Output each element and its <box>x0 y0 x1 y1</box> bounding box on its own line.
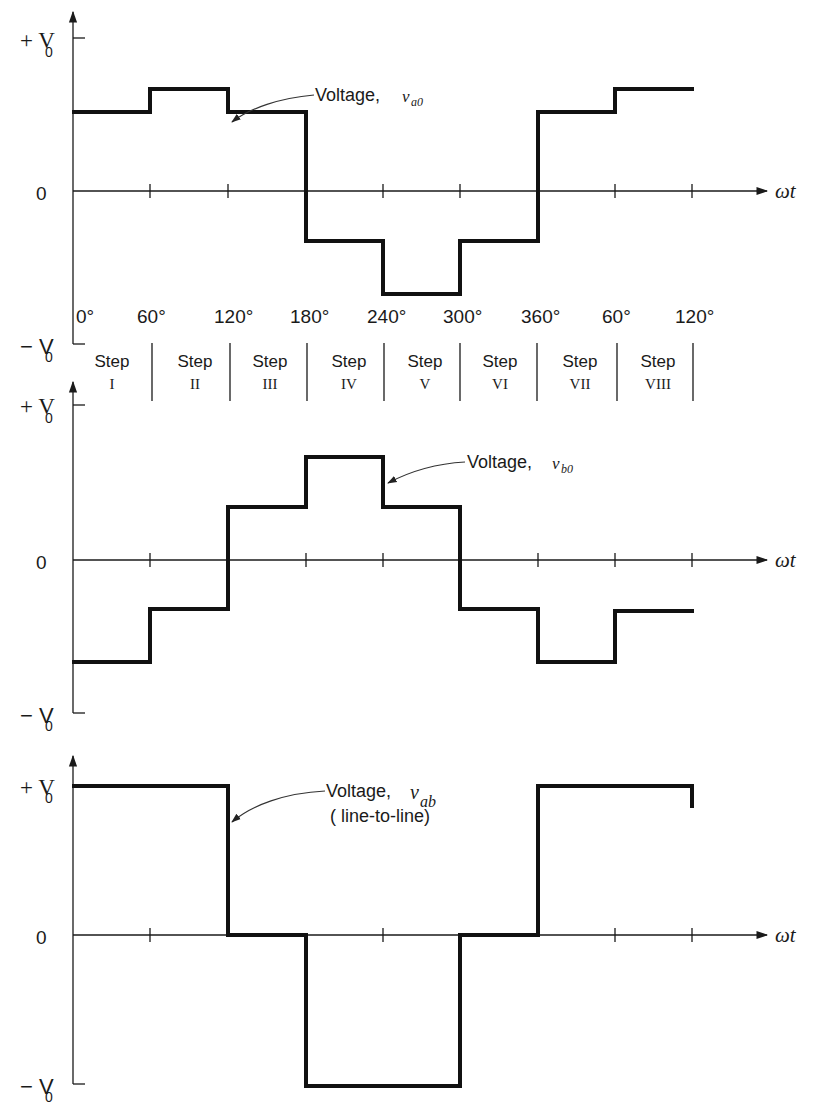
step-band: Step I Step II Step III Step IV Step V S… <box>95 343 693 401</box>
svg-text:VIII: VIII <box>645 376 671 392</box>
zero-label: 0 <box>36 183 47 204</box>
symbol-va0: v <box>402 87 410 106</box>
svg-text:v: v <box>410 781 419 803</box>
omega-t-label: ωt <box>775 548 797 572</box>
annotation-vab: Voltage, <box>326 781 391 801</box>
plot-vab: + V 0 0 ωt − V 0 Voltage, v ab ( line-to… <box>20 756 797 1105</box>
svg-text:360°: 360° <box>521 306 560 327</box>
svg-text:0: 0 <box>45 410 53 426</box>
zero-label: 0 <box>36 552 47 573</box>
svg-text:180°: 180° <box>290 306 329 327</box>
svg-text:Step: Step <box>483 352 518 371</box>
omega-t-label: ωt <box>775 923 797 947</box>
svg-text:V: V <box>420 376 431 392</box>
plot-vb0: + V 0 0 ωt − V 0 Voltage, v b0 <box>20 382 797 734</box>
omega-t-label: ωt <box>775 179 797 203</box>
svg-text:v: v <box>552 454 560 473</box>
svg-text:0°: 0° <box>76 306 94 327</box>
svg-text:IV: IV <box>341 376 357 392</box>
annotation-arrow <box>388 462 465 483</box>
svg-text:VI: VI <box>492 376 508 392</box>
svg-text:240°: 240° <box>367 306 406 327</box>
annotation-vb0: Voltage, <box>467 452 532 472</box>
svg-text:Step: Step <box>408 352 443 371</box>
svg-text:120°: 120° <box>214 306 253 327</box>
svg-text:0: 0 <box>45 718 53 734</box>
subscript-va0: a0 <box>411 95 423 109</box>
svg-text:0: 0 <box>45 1089 53 1105</box>
inverter-waveform-diagram: + V 0 ωt − V 0 0 Voltage, v a0 0° 60° 12… <box>0 0 816 1105</box>
svg-text:Step: Step <box>95 352 130 371</box>
plus-v0-subscript: 0 <box>45 44 53 60</box>
svg-text:Step: Step <box>253 352 288 371</box>
svg-text:60°: 60° <box>137 306 166 327</box>
svg-text:60°: 60° <box>602 306 631 327</box>
svg-text:I: I <box>110 376 115 392</box>
svg-text:300°: 300° <box>443 306 482 327</box>
svg-text:Step: Step <box>332 352 367 371</box>
annotation-vab-line2: ( line-to-line) <box>330 806 430 826</box>
svg-text:Step: Step <box>563 352 598 371</box>
annotation-arrow <box>232 95 314 122</box>
minus-v0-subscript: 0 <box>45 349 53 365</box>
svg-text:II: II <box>190 376 200 392</box>
svg-text:Step: Step <box>641 352 676 371</box>
angle-labels: 0° 60° 120° 180° 240° 300° 360° 60° 120° <box>76 306 714 327</box>
annotation-va0: Voltage, <box>315 85 380 105</box>
svg-text:III: III <box>263 376 278 392</box>
svg-text:b0: b0 <box>561 462 573 476</box>
svg-text:VII: VII <box>570 376 591 392</box>
annotation-arrow <box>232 791 325 822</box>
svg-text:Step: Step <box>178 352 213 371</box>
svg-text:120°: 120° <box>675 306 714 327</box>
zero-label: 0 <box>36 927 47 948</box>
svg-text:0: 0 <box>45 790 53 806</box>
